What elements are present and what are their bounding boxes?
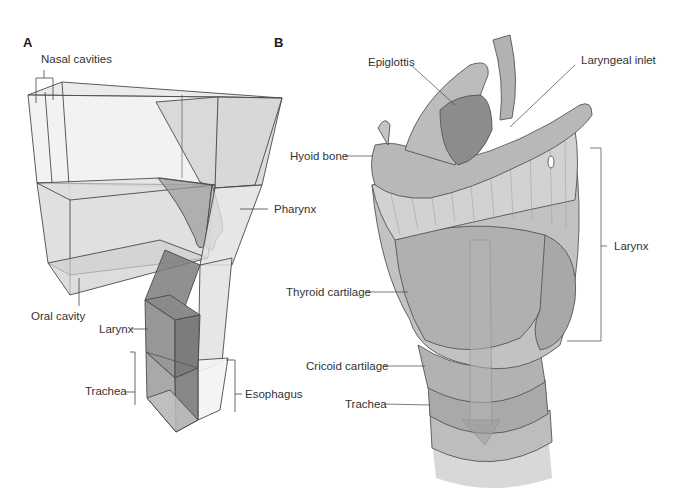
label-thyroid-cartilage: Thyroid cartilage xyxy=(286,286,371,299)
panel-b-larynx xyxy=(372,35,593,488)
label-larynx-a: Larynx xyxy=(99,323,134,336)
label-cricoid-cartilage: Cricoid cartilage xyxy=(306,360,388,373)
label-epiglottis: Epiglottis xyxy=(368,56,415,69)
panel-a-schematic xyxy=(28,82,282,432)
anatomy-illustration xyxy=(0,0,681,493)
panel-a-letter: A xyxy=(23,35,32,50)
panel-b-letter: B xyxy=(274,35,283,50)
label-hyoid-bone: Hyoid bone xyxy=(290,150,348,163)
label-oral-cavity: Oral cavity xyxy=(31,310,85,323)
label-pharynx: Pharynx xyxy=(274,203,316,216)
label-nasal-cavities: Nasal cavities xyxy=(41,53,112,66)
label-trachea-b: Trachea xyxy=(345,398,387,411)
label-larynx-b: Larynx xyxy=(614,240,649,253)
label-laryngeal-inlet: Laryngeal inlet xyxy=(581,54,656,67)
label-trachea-a: Trachea xyxy=(85,385,127,398)
label-esophagus: Esophagus xyxy=(245,388,303,401)
